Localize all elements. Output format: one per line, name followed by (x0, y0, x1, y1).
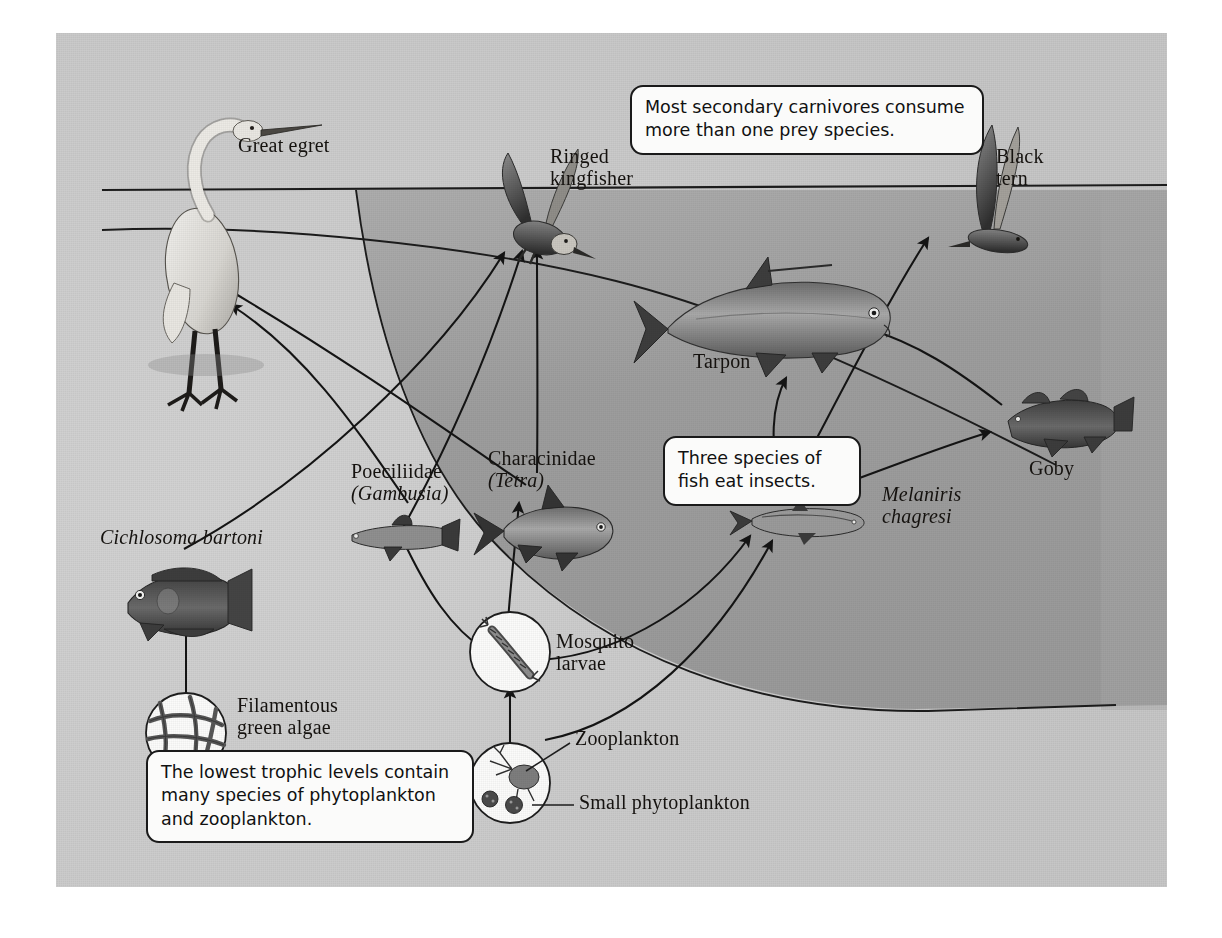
callout-three-species-fish: Three species of fish eat insects. (663, 436, 861, 506)
figure-panel: Great egret Ringed kingfisher Black tern… (56, 33, 1167, 887)
label-filamentous-green-algae: Filamentous green algae (237, 694, 338, 739)
callout-lowest-trophic-levels: The lowest trophic levels contain many s… (146, 750, 474, 843)
callout-secondary-carnivores: Most secondary carnivores consume more t… (630, 85, 984, 155)
label-small-phytoplankton: Small phytoplankton (579, 791, 750, 813)
